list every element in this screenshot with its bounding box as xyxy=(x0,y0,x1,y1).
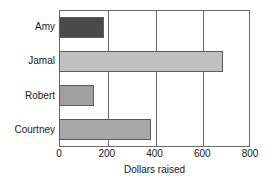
y-axis-label-robert: Robert xyxy=(0,79,55,113)
bar-row xyxy=(59,113,250,147)
bar-chart: Amy Jamal Robert Courtney 0 200 400 600 … xyxy=(0,0,269,182)
x-axis-tick-0: 0 xyxy=(56,149,62,159)
y-axis-labels: Amy Jamal Robert Courtney xyxy=(0,10,55,147)
y-axis-label-courtney: Courtney xyxy=(0,113,55,147)
y-axis-label-jamal: Jamal xyxy=(0,44,55,78)
x-axis-tick-400: 400 xyxy=(146,149,163,159)
bars-layer xyxy=(59,10,250,147)
bar-row xyxy=(59,10,250,44)
x-axis-tick-200: 200 xyxy=(98,149,115,159)
bar-robert xyxy=(59,85,94,106)
y-axis-label-amy: Amy xyxy=(0,10,55,44)
bar-amy xyxy=(59,17,104,38)
bar-jamal xyxy=(59,51,223,72)
x-axis-title: Dollars raised xyxy=(59,165,250,175)
bar-row xyxy=(59,79,250,113)
x-axis-tick-600: 600 xyxy=(194,149,211,159)
x-axis-tick-800: 800 xyxy=(242,149,259,159)
bar-courtney xyxy=(59,119,151,140)
x-axis-ticks: 0 200 400 600 800 xyxy=(59,149,250,163)
bar-row xyxy=(59,44,250,78)
